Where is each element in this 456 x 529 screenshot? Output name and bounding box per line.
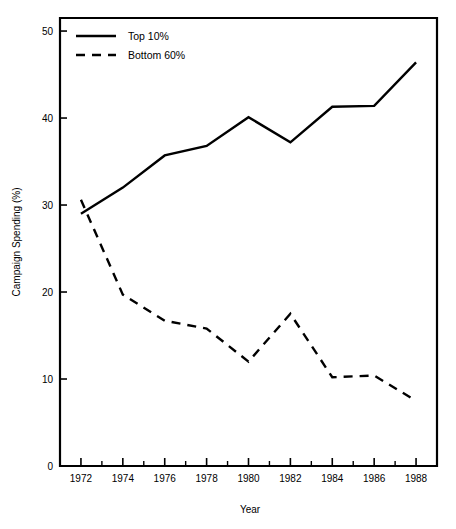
x-tick-label-1986: 1986 [363, 473, 386, 484]
x-axis-ticks [81, 458, 416, 466]
plot-border [60, 18, 437, 466]
x-tick-label-1980: 1980 [237, 473, 260, 484]
data-series-group [81, 62, 416, 400]
x-tick-label-1978: 1978 [195, 473, 218, 484]
y-tick-label-20: 20 [42, 287, 54, 298]
plot-frame [60, 18, 437, 466]
legend-label-top-10: Top 10% [128, 30, 169, 42]
y-tick-label-30: 30 [42, 200, 54, 211]
x-tick-label-1982: 1982 [279, 473, 302, 484]
x-tick-label-1972: 1972 [70, 473, 93, 484]
y-tick-label-50: 50 [42, 26, 54, 37]
legend-label-bottom-60: Bottom 60% [128, 49, 185, 61]
chart-figure: 01020304050 1972197419761978198019821984… [0, 0, 456, 529]
y-tick-label-0: 0 [47, 461, 53, 472]
y-axis-title: Campaign Spending (%) [11, 188, 22, 297]
x-tick-label-1988: 1988 [405, 473, 428, 484]
series-line-top-10 [81, 62, 416, 213]
series-line-bottom-60 [81, 200, 416, 401]
x-tick-label-1984: 1984 [321, 473, 344, 484]
y-axis-tick-labels: 01020304050 [42, 26, 54, 472]
x-axis-title: Year [240, 504, 261, 515]
y-tick-label-10: 10 [42, 374, 54, 385]
line-chart-svg: 01020304050 1972197419761978198019821984… [0, 0, 456, 529]
x-tick-label-1974: 1974 [112, 473, 135, 484]
x-axis-tick-labels: 197219741976197819801982198419861988 [70, 473, 428, 484]
x-tick-label-1976: 1976 [154, 473, 177, 484]
y-tick-label-40: 40 [42, 113, 54, 124]
chart-legend: Top 10%Bottom 60% [76, 30, 185, 61]
